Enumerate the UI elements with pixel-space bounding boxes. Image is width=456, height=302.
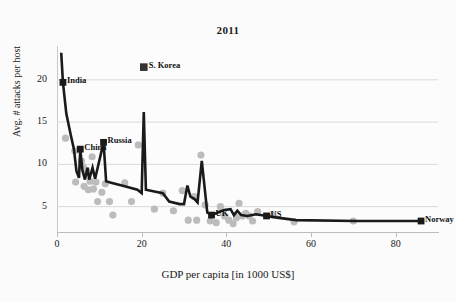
point-label: India xyxy=(67,75,86,85)
point-label: Russia xyxy=(108,135,132,145)
point-label: China xyxy=(84,142,106,152)
point-label: UK xyxy=(216,208,229,218)
point-label: Norway xyxy=(425,214,454,224)
point-label: US xyxy=(271,209,282,219)
plot-svg xyxy=(0,0,456,302)
chart-container: 2011 Avg. # attacks per host GDP per cap… xyxy=(0,0,456,302)
point-label: S. Korea xyxy=(149,60,180,70)
